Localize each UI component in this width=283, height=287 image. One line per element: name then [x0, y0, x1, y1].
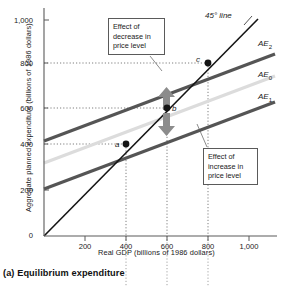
data-point-label-a: a [115, 140, 119, 149]
annotation-increase-line-3: price level [208, 171, 253, 181]
figure-caption: (a) Equilibrium expenditure [3, 268, 125, 278]
series-label-ae1: AE1 [258, 92, 272, 103]
y-tick-label-1000: 1,000 [3, 16, 33, 25]
annotation-decrease-line-3: price level [113, 41, 160, 51]
leader-line-decrease [150, 56, 162, 71]
data-point-a [123, 141, 130, 148]
x-axis-title: Real GDP (billions of 1986 dollars) [98, 248, 215, 257]
annotation-decrease-line-1: Effect of [113, 22, 160, 32]
y-tick-label-800: 800 [3, 59, 33, 68]
annotation-increase-line-1: Effect of [208, 152, 253, 162]
series-label-ae0: AE0 [258, 70, 272, 81]
series-label-ae2-text: AE [258, 39, 269, 48]
x-tick-label-200: 200 [68, 242, 102, 251]
data-point-c [205, 60, 212, 67]
y-tick-label-600: 600 [3, 104, 33, 113]
series-label-45-degree: 45° line [205, 11, 232, 20]
x-tick-label-1000: 1,000 [232, 242, 266, 251]
data-point-label-b: b [172, 104, 176, 113]
series-label-ae1-sub: 1 [269, 97, 272, 103]
series-label-ae0-sub: 0 [269, 75, 272, 81]
y-tick-label-400: 400 [3, 140, 33, 149]
data-point-label-c: c [196, 55, 200, 64]
series-line-ae2 [44, 54, 275, 141]
leader-line-45 [244, 16, 252, 25]
series-label-ae2: AE2 [258, 39, 272, 50]
annotation-effect-of-decrease: Effect of decrease in price level [108, 18, 165, 55]
y-tick-label-200: 200 [3, 186, 33, 195]
annotation-increase-line-2: increase in [208, 162, 253, 172]
series-label-ae1-text: AE [258, 92, 269, 101]
annotation-decrease-line-2: decrease in [113, 32, 160, 42]
series-label-ae2-sub: 2 [269, 44, 272, 50]
series-label-ae0-text: AE [258, 70, 269, 79]
y-tick-label-0: 0 [3, 231, 33, 240]
annotation-effect-of-increase: Effect of increase in price level [203, 148, 258, 185]
shift-arrow-down-icon [158, 113, 175, 136]
data-point-b [164, 105, 171, 112]
figure-equilibrium-expenditure: Aggregate planned expenditure (billions … [0, 0, 283, 287]
